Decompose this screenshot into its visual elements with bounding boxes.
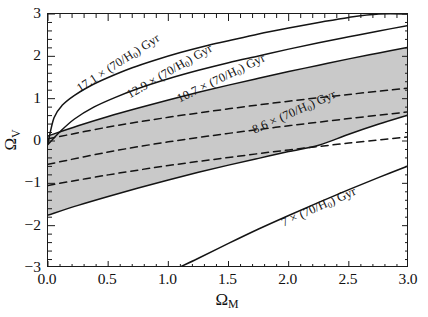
x-axis-title-subscript: M — [228, 297, 239, 311]
y-axis-title-symbol: Ω — [1, 138, 20, 151]
y-tick-label: −2 — [25, 216, 42, 234]
y-tick-label: −1 — [25, 173, 42, 191]
x-tick-label: 2.5 — [338, 270, 357, 288]
plot-canvas — [48, 14, 408, 267]
x-tick-label: 2.0 — [278, 270, 297, 288]
plot-frame — [47, 13, 408, 267]
x-axis-title: ΩM — [215, 290, 238, 312]
x-tick-label: 3.0 — [399, 270, 418, 288]
x-tick-label: 1.0 — [158, 270, 177, 288]
y-axis-title-subscript: V — [9, 129, 23, 138]
y-tick-label: 1 — [33, 89, 41, 107]
y-tick-label: −3 — [25, 258, 42, 276]
x-axis-title-symbol: Ω — [215, 290, 228, 309]
x-tick-label: 0.5 — [98, 270, 117, 288]
y-tick-label: 3 — [33, 4, 41, 22]
y-tick-label: 2 — [33, 46, 41, 64]
y-tick-label: 0 — [33, 131, 41, 149]
x-tick-label: 1.5 — [218, 270, 237, 288]
y-axis-title: ΩV — [1, 129, 23, 150]
figure-root: 0.00.51.01.52.02.53.0 −3−2−10123 17.1 × … — [0, 0, 428, 317]
